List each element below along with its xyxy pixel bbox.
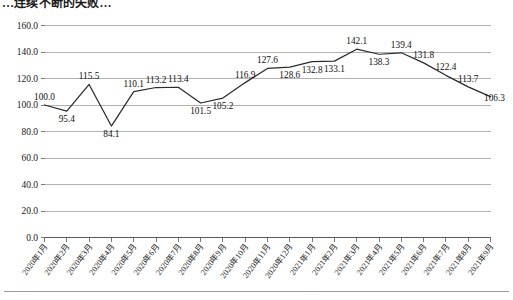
data-point-label: 95.4 bbox=[59, 114, 76, 124]
ytick-label: 40.0 bbox=[21, 180, 38, 190]
data-point-label: 133.1 bbox=[324, 64, 345, 74]
xtick-labels-group: 2020年1月2020年2月2020年3月2020年4月2020年5月2020年… bbox=[20, 242, 496, 280]
ytick-label: 160.0 bbox=[17, 21, 39, 31]
data-point-label: 116.9 bbox=[235, 70, 256, 80]
data-point-label: 131.8 bbox=[413, 50, 434, 60]
ytick-label: 140.0 bbox=[17, 47, 39, 57]
chart-page: …连续不断的失败… 0.020.040.060.080.0100.0120.01… bbox=[0, 0, 513, 300]
bottom-divider bbox=[4, 291, 509, 292]
data-point-label: 113.2 bbox=[146, 75, 167, 85]
ytick-label: 20.0 bbox=[21, 206, 38, 216]
ytick-label: 60.0 bbox=[21, 153, 38, 163]
data-point-label: 122.4 bbox=[435, 62, 456, 72]
data-point-label: 142.1 bbox=[346, 36, 367, 46]
data-point-label: 84.1 bbox=[103, 129, 120, 139]
data-point-label: 128.6 bbox=[279, 70, 300, 80]
ytick-label: 80.0 bbox=[21, 127, 38, 137]
data-point-label: 106.3 bbox=[484, 93, 505, 103]
data-point-label: 139.4 bbox=[391, 40, 412, 50]
data-point-label: 138.3 bbox=[369, 57, 390, 67]
ytick-labels-group: 0.020.040.060.080.0100.0120.0140.0160.0 bbox=[17, 21, 39, 243]
ytick-label: 120.0 bbox=[17, 74, 39, 84]
xtick-marks-group bbox=[45, 238, 491, 242]
data-point-label: 115.5 bbox=[79, 71, 100, 81]
ytick-marks-group bbox=[41, 26, 45, 238]
data-point-label: 110.1 bbox=[123, 79, 144, 89]
line-chart-plot: 0.020.040.060.080.0100.0120.0140.0160.0 … bbox=[0, 0, 513, 300]
data-point-label: 127.6 bbox=[257, 55, 278, 65]
data-point-label: 100.0 bbox=[34, 92, 55, 102]
data-point-label: 105.2 bbox=[212, 101, 233, 111]
data-point-label: 101.5 bbox=[190, 106, 211, 116]
ytick-label: 0.0 bbox=[26, 233, 38, 243]
data-point-label: 132.8 bbox=[302, 65, 323, 75]
data-point-label: 113.4 bbox=[168, 74, 189, 84]
data-point-label: 113.7 bbox=[458, 74, 479, 84]
